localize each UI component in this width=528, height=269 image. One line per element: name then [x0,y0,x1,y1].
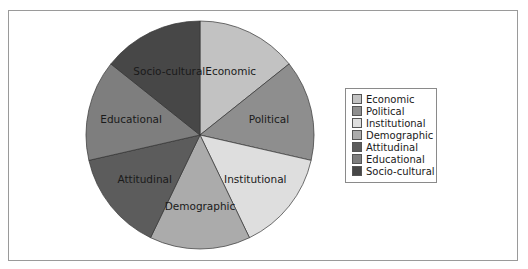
legend-label: Institutional [366,118,426,129]
slice-label: Economic [205,65,256,77]
legend-label: Educational [366,154,425,165]
pie-slices [86,21,314,249]
slice-label: Educational [100,113,162,125]
legend-item: Economic [352,93,436,105]
legend-item: Educational [352,153,436,165]
legend-swatch [352,142,362,152]
legend-label: Attitudinal [366,142,418,153]
legend-label: Political [366,106,404,117]
legend-swatch [352,166,362,176]
legend: Economic Political Institutional Demogra… [345,88,437,183]
legend-item: Socio-cultural [352,165,436,177]
legend-label: Socio-cultural [366,166,435,177]
legend-swatch [352,106,362,116]
slice-label: Attitudinal [117,173,172,185]
legend-swatch [352,94,362,104]
legend-swatch [352,118,362,128]
legend-label: Demographic [366,130,433,141]
slice-label: Socio-cultural [133,65,205,77]
legend-item: Institutional [352,117,436,129]
slice-label: Institutional [224,173,287,185]
slice-label: Demographic [165,200,236,212]
legend-swatch [352,154,362,164]
pie-chart: EconomicPoliticalInstitutionalDemographi… [0,0,528,269]
legend-item: Attitudinal [352,141,436,153]
legend-label: Economic [366,94,414,105]
slice-label: Political [249,113,289,125]
legend-item: Political [352,105,436,117]
legend-item: Demographic [352,129,436,141]
legend-swatch [352,130,362,140]
